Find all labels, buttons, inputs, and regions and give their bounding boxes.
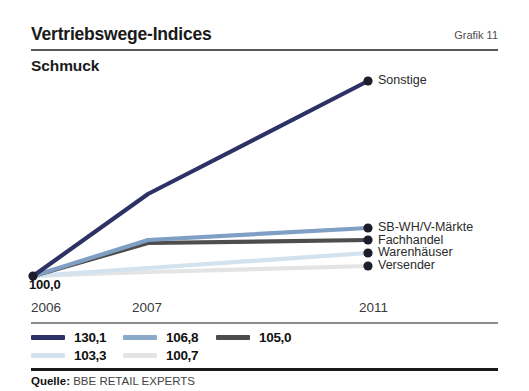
footer-divider — [31, 368, 498, 371]
x-axis-divider — [31, 322, 498, 324]
legend-swatch-versender — [123, 353, 157, 358]
series-label-sonstige: Sonstige — [378, 73, 427, 87]
series-line-sb-wh-v-maerkte — [33, 228, 368, 276]
legend-item-warenhaeuser: 103,3 — [31, 348, 106, 363]
figure-number: Grafik 11 — [454, 29, 498, 41]
legend-item-fachhandel: 105,0 — [216, 330, 291, 345]
baseline-value-label: 100,0 — [29, 277, 61, 292]
legend-value-fachhandel: 105,0 — [259, 330, 291, 345]
series-label-versender: Versender — [378, 258, 435, 272]
endpoint-marker-warenhaeuser — [363, 248, 372, 257]
endpoint-marker-sb-wh-v-maerkte — [363, 223, 372, 232]
legend-swatch-warenhaeuser — [31, 353, 65, 358]
endpoint-marker-sonstige — [363, 76, 372, 85]
source-label: Quelle: — [31, 375, 70, 387]
legend-swatch-fachhandel — [216, 335, 250, 340]
chart-legend: 130,1 106,8 105,0 103,3 100,7 — [31, 330, 498, 364]
x-axis-labels: 2006 2007 2011 — [0, 300, 529, 320]
x-tick-2007: 2007 — [132, 300, 162, 315]
legend-swatch-sb-wh-v-maerkte — [123, 335, 157, 340]
x-tick-2011: 2011 — [359, 300, 388, 315]
source-note: Quelle: BBE RETAIL EXPERTS — [31, 375, 195, 387]
series-label-sb-wh-v-maerkte: SB-WH/V-Märkte — [378, 220, 473, 234]
series-line-versender — [33, 266, 368, 276]
chart-subtitle: Schmuck — [31, 57, 99, 75]
series-line-fachhandel — [33, 240, 368, 276]
chart-page: Vertriebswege-Indices Grafik 11 Schmuck — [0, 0, 529, 391]
page-title: Vertriebswege-Indices — [31, 24, 212, 45]
legend-value-sb-wh-v-maerkte: 106,8 — [166, 330, 198, 345]
legend-value-warenhaeuser: 103,3 — [74, 348, 106, 363]
x-tick-2006: 2006 — [31, 300, 61, 315]
legend-value-sonstige: 130,1 — [74, 330, 106, 345]
legend-item-versender: 100,7 — [123, 348, 198, 363]
legend-value-versender: 100,7 — [166, 348, 198, 363]
series-line-warenhaeuser — [33, 253, 368, 276]
chart-header: Vertriebswege-Indices Grafik 11 — [31, 24, 498, 48]
series-label-warenhaeuser: Warenhäuser — [378, 245, 453, 259]
endpoint-marker-fachhandel — [363, 235, 372, 244]
endpoint-marker-versender — [363, 261, 372, 270]
header-divider — [31, 49, 498, 51]
legend-item-sonstige: 130,1 — [31, 330, 106, 345]
legend-item-sb-wh-v-maerkte: 106,8 — [123, 330, 198, 345]
legend-swatch-sonstige — [31, 335, 65, 340]
source-text: BBE RETAIL EXPERTS — [73, 375, 195, 387]
series-line-sonstige — [33, 81, 368, 276]
